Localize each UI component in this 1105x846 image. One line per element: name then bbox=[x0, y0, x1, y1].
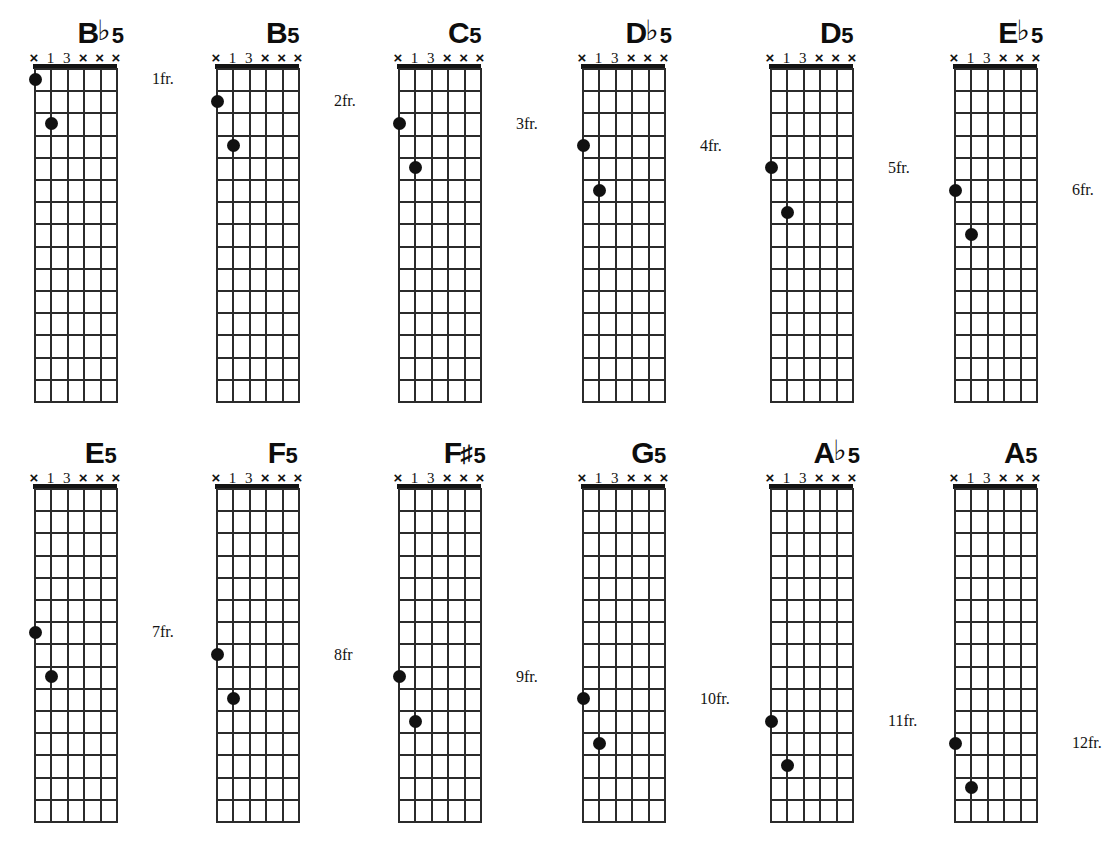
string-line-4 bbox=[803, 488, 805, 821]
chord-title-db5: D♭5 bbox=[556, 16, 741, 50]
chord-diagram-g5[interactable]: G5×13×××10fr. bbox=[556, 436, 741, 821]
fret-line-10 bbox=[34, 710, 118, 712]
fretboard-grid[interactable]: 9fr. bbox=[398, 488, 480, 821]
chord-diagram-e5[interactable]: E5×13×××7fr. bbox=[8, 436, 193, 821]
fret-line-0 bbox=[770, 488, 854, 490]
fret-line-11 bbox=[34, 312, 118, 314]
finger-dot-string6-fret1[interactable] bbox=[29, 73, 42, 86]
chord-diagram-ab5[interactable]: A♭5×13×××11fr. bbox=[744, 436, 929, 821]
fret-line-11 bbox=[770, 312, 854, 314]
finger-dot-string5-fret5[interactable] bbox=[409, 161, 422, 174]
fretboard-grid[interactable]: 7fr. bbox=[34, 488, 116, 821]
chord-diagram-db5[interactable]: D♭5×13×××4fr. bbox=[556, 16, 741, 401]
chord-diagram-a5[interactable]: A5×13×××12fr. bbox=[928, 436, 1105, 821]
fret-line-12 bbox=[954, 754, 1038, 756]
finger-dot-string5-fret7[interactable] bbox=[781, 206, 794, 219]
fret-line-2 bbox=[398, 532, 482, 534]
fret-line-15 bbox=[954, 821, 1038, 823]
chord-quality: 5 bbox=[469, 23, 481, 48]
chord-diagram-bb5[interactable]: B♭5×13×××1fr. bbox=[8, 16, 193, 401]
finger-dot-string6-fret8[interactable] bbox=[211, 648, 224, 661]
finger-dot-string6-fret4[interactable] bbox=[577, 139, 590, 152]
chord-diagram-eb5[interactable]: E♭5×13×××6fr. bbox=[928, 16, 1105, 401]
chord-diagram-f5[interactable]: F5×13×××8fr bbox=[190, 436, 375, 821]
string-line-4 bbox=[987, 68, 989, 401]
finger-dot-string5-fret11[interactable] bbox=[409, 715, 422, 728]
fret-line-2 bbox=[398, 112, 482, 114]
fretboard-grid[interactable]: 2fr. bbox=[216, 68, 298, 401]
finger-dot-string5-fret14[interactable] bbox=[965, 781, 978, 794]
finger-dot-string6-fret11[interactable] bbox=[765, 715, 778, 728]
finger-dot-string6-fret5[interactable] bbox=[765, 161, 778, 174]
fret-line-1 bbox=[954, 90, 1038, 92]
fret-line-8 bbox=[954, 666, 1038, 668]
flat-icon: ♭ bbox=[1017, 15, 1030, 46]
fretboard-grid[interactable]: 8fr bbox=[216, 488, 298, 821]
fret-line-3 bbox=[582, 135, 666, 137]
string-line-1 bbox=[116, 68, 118, 401]
fretboard-grid[interactable]: 1fr. bbox=[34, 68, 116, 401]
fretboard-grid[interactable]: 10fr. bbox=[582, 488, 664, 821]
chord-diagram-b5[interactable]: B5×13×××2fr. bbox=[190, 16, 375, 401]
fret-line-15 bbox=[216, 821, 300, 823]
string-line-2 bbox=[648, 488, 650, 821]
string-line-3 bbox=[819, 68, 821, 401]
finger-dot-string6-fret12[interactable] bbox=[949, 737, 962, 750]
fretboard-grid[interactable]: 5fr. bbox=[770, 68, 852, 401]
finger-dot-string5-fret3[interactable] bbox=[45, 117, 58, 130]
fretboard-grid[interactable]: 6fr. bbox=[954, 68, 1036, 401]
chord-quality: 5 bbox=[286, 443, 298, 468]
fret-line-12 bbox=[398, 754, 482, 756]
fretboard-grid[interactable]: 4fr. bbox=[582, 68, 664, 401]
finger-dot-string5-fret6[interactable] bbox=[593, 184, 606, 197]
finger-dot-string6-fret9[interactable] bbox=[393, 670, 406, 683]
finger-dot-string5-fret12[interactable] bbox=[593, 737, 606, 750]
fret-line-13 bbox=[216, 357, 300, 359]
finger-dot-string6-fret6[interactable] bbox=[949, 184, 962, 197]
fret-line-7 bbox=[582, 643, 666, 645]
fret-line-4 bbox=[954, 577, 1038, 579]
chord-quality: 5 bbox=[1031, 23, 1043, 48]
chord-quality: 5 bbox=[654, 443, 666, 468]
fretboard-grid[interactable]: 11fr. bbox=[770, 488, 852, 821]
string-line-5 bbox=[414, 68, 416, 401]
fret-line-3 bbox=[216, 135, 300, 137]
finger-dot-string5-fret10[interactable] bbox=[227, 692, 240, 705]
fret-line-11 bbox=[770, 732, 854, 734]
fretboard-grid[interactable]: 12fr. bbox=[954, 488, 1036, 821]
fret-position-label-eb5: 6fr. bbox=[1072, 182, 1094, 198]
fret-line-1 bbox=[398, 90, 482, 92]
fret-line-1 bbox=[216, 510, 300, 512]
finger-dot-string6-fret2[interactable] bbox=[211, 95, 224, 108]
finger-dot-string5-fret4[interactable] bbox=[227, 139, 240, 152]
fret-line-0 bbox=[582, 68, 666, 70]
fretboard-grid[interactable]: 3fr. bbox=[398, 68, 480, 401]
string-line-5 bbox=[970, 488, 972, 821]
finger-dot-string5-fret9[interactable] bbox=[45, 670, 58, 683]
fret-line-13 bbox=[582, 357, 666, 359]
fret-line-3 bbox=[770, 135, 854, 137]
string-line-2 bbox=[648, 68, 650, 401]
fret-line-14 bbox=[954, 379, 1038, 381]
chord-root-letter: E bbox=[998, 16, 1018, 49]
string-line-3 bbox=[819, 488, 821, 821]
fret-line-8 bbox=[770, 666, 854, 668]
finger-dot-string5-fret8[interactable] bbox=[965, 228, 978, 241]
finger-dot-string6-fret10[interactable] bbox=[577, 692, 590, 705]
fret-line-0 bbox=[398, 488, 482, 490]
fret-line-9 bbox=[770, 268, 854, 270]
string-line-3 bbox=[447, 68, 449, 401]
chord-diagram-c5[interactable]: C5×13×××3fr. bbox=[372, 16, 557, 401]
fret-line-8 bbox=[582, 666, 666, 668]
fret-line-6 bbox=[398, 201, 482, 203]
finger-dot-string6-fret3[interactable] bbox=[393, 117, 406, 130]
fret-line-14 bbox=[216, 799, 300, 801]
fret-line-10 bbox=[398, 290, 482, 292]
fret-line-7 bbox=[216, 643, 300, 645]
fret-line-11 bbox=[216, 732, 300, 734]
chord-diagram-d5[interactable]: D5×13×××5fr. bbox=[744, 16, 929, 401]
finger-dot-string5-fret13[interactable] bbox=[781, 759, 794, 772]
finger-dot-string6-fret7[interactable] bbox=[29, 626, 42, 639]
string-line-2 bbox=[464, 68, 466, 401]
chord-diagram-fsharp5[interactable]: F♯5×13×××9fr. bbox=[372, 436, 557, 821]
